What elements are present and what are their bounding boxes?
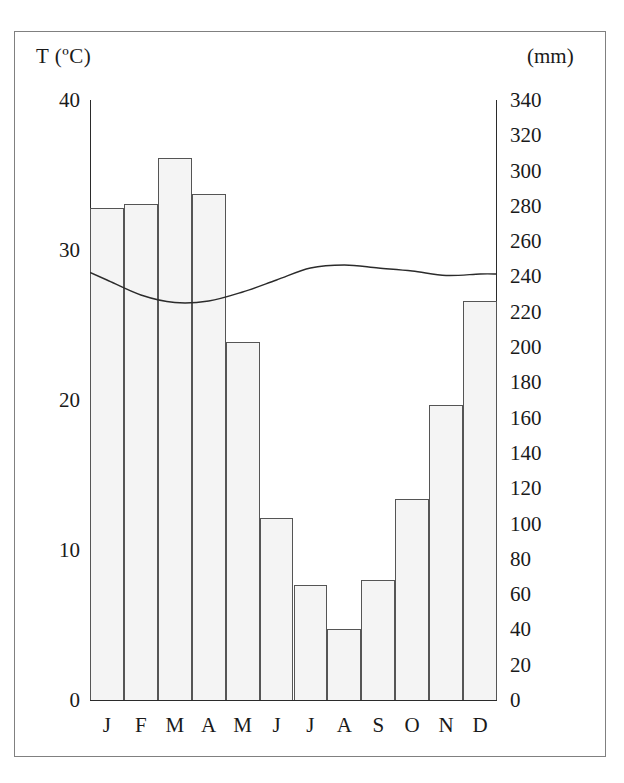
climograph-page: T (ºC) (mm) 3403203002802602402202001801…	[0, 0, 624, 783]
plot-area	[90, 100, 496, 700]
left-axis-tick-label: 40	[20, 90, 80, 111]
precipitation-bar	[361, 580, 395, 700]
right-axis-tick-label: 0	[510, 690, 570, 711]
month-axis-label: A	[327, 715, 361, 736]
precipitation-bar	[260, 518, 294, 700]
precipitation-bar	[226, 342, 260, 700]
right-axis-tick-label: 280	[510, 196, 570, 217]
left-axis-tick-label: 20	[20, 390, 80, 411]
right-axis-tick-label: 180	[510, 372, 570, 393]
left-axis-tick-label: 30	[20, 240, 80, 261]
bottom-axis-line	[90, 700, 497, 701]
right-axis-tick-label: 80	[510, 549, 570, 570]
right-axis-tick-label: 240	[510, 266, 570, 287]
month-axis-label: N	[429, 715, 463, 736]
month-axis-label: D	[463, 715, 497, 736]
right-axis-tick-label: 140	[510, 443, 570, 464]
precipitation-bar	[429, 405, 463, 700]
right-axis-tick-label: 120	[510, 478, 570, 499]
left-axis-tick-label: 10	[20, 540, 80, 561]
month-axis-label: A	[192, 715, 226, 736]
month-axis-label: M	[226, 715, 260, 736]
month-axis-label: F	[124, 715, 158, 736]
month-axis-label: J	[90, 715, 124, 736]
right-axis-tick-label: 340	[510, 90, 570, 111]
right-axis-tick-label: 300	[510, 161, 570, 182]
precipitation-axis-label: (mm)	[527, 44, 574, 69]
right-axis-tick-label: 20	[510, 655, 570, 676]
right-axis-tick-label: 320	[510, 125, 570, 146]
precipitation-bar	[124, 204, 158, 700]
right-axis-tick-label: 160	[510, 408, 570, 429]
month-axis-label: S	[361, 715, 395, 736]
right-axis-tick-label: 220	[510, 302, 570, 323]
temperature-axis-label: T (ºC)	[36, 44, 91, 69]
precipitation-bar	[158, 158, 192, 700]
month-axis-label: J	[260, 715, 294, 736]
month-axis-label: J	[293, 715, 327, 736]
month-axis-label: M	[158, 715, 192, 736]
precipitation-bar	[294, 585, 328, 700]
right-axis-tick-label: 40	[510, 619, 570, 640]
right-axis-tick-label: 260	[510, 231, 570, 252]
precipitation-bar	[463, 301, 497, 700]
precipitation-bar	[90, 208, 124, 700]
right-axis-tick-label: 100	[510, 514, 570, 535]
precipitation-bar	[395, 499, 429, 700]
right-axis-tick-label: 200	[510, 337, 570, 358]
precipitation-bar	[192, 194, 226, 700]
left-axis-tick-label: 0	[20, 690, 80, 711]
precipitation-bar	[327, 629, 361, 700]
right-axis-tick-label: 60	[510, 584, 570, 605]
month-axis-label: O	[395, 715, 429, 736]
